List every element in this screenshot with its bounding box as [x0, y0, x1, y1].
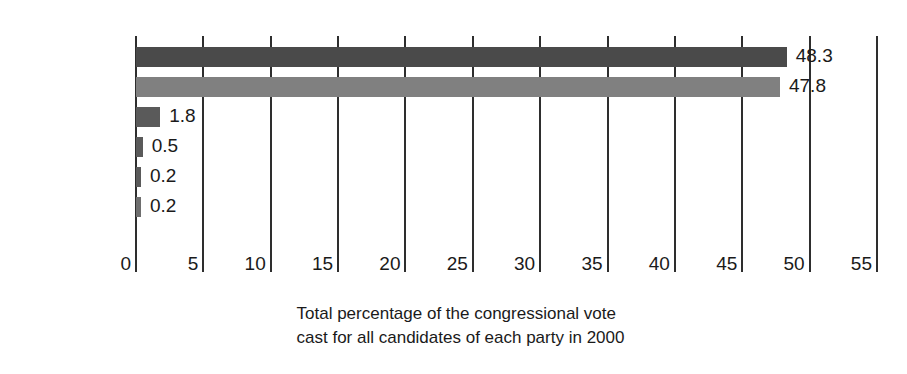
bar-category-label: Libertarians: [0, 105, 135, 127]
bar-category-label-text: Green: [0, 195, 135, 217]
x-tick-label-50: 50: [783, 252, 809, 276]
bar-category-label-text: Reform: [0, 165, 135, 187]
bar-value-label: 0.5: [152, 135, 178, 157]
bar-category-label-text: Libertarians: [0, 105, 135, 127]
caption-line-2: cast for all candidates of each party in…: [297, 326, 625, 350]
bar: [136, 137, 143, 157]
bar-category-label: Natural Law: [0, 135, 135, 157]
x-tick-label-40: 40: [649, 252, 675, 276]
bar-value-label: 0.2: [150, 165, 176, 187]
bar-value-label: 0.2: [150, 195, 176, 217]
x-tick-label-55: 55: [851, 252, 877, 276]
bar-row: Green0.2: [0, 197, 907, 217]
bar-chart: Republicans48.3Democrats47.8Libertarians…: [0, 0, 907, 374]
bar-category-label: Republicans: [0, 45, 135, 67]
bar-category-label: Reform: [0, 165, 135, 187]
bar-row: Natural Law0.5: [0, 137, 907, 157]
x-tick-label-20: 20: [379, 252, 405, 276]
x-tick-label-15: 15: [312, 252, 338, 276]
x-tick-label-45: 45: [716, 252, 742, 276]
bar-category-label-text: Democrats: [0, 75, 135, 97]
bar: [136, 167, 141, 187]
plot-area: Republicans48.3Democrats47.8Libertarians…: [0, 36, 907, 276]
caption-line-1: Total percentage of the congressional vo…: [297, 302, 625, 326]
bar: [136, 77, 780, 97]
bar-value-label: 47.8: [789, 75, 826, 97]
bar-value-label: 1.8: [169, 105, 195, 127]
bar-category-label: Democrats: [0, 75, 135, 97]
bar-row: Republicans48.3: [0, 47, 907, 67]
bar: [136, 47, 787, 67]
bar: [136, 197, 141, 217]
x-tick-label-35: 35: [581, 252, 607, 276]
x-axis-tick-labels: 0510152025303540455055: [0, 252, 907, 278]
bar: [136, 107, 160, 127]
bar-category-label: Green: [0, 195, 135, 217]
x-tick-label-10: 10: [245, 252, 271, 276]
chart-caption: Total percentage of the congressional vo…: [0, 302, 907, 350]
bar-row: Reform0.2: [0, 167, 907, 187]
x-tick-label-30: 30: [514, 252, 540, 276]
x-tick-label-0: 0: [120, 252, 136, 276]
bar-value-label: 48.3: [796, 45, 833, 67]
x-tick-label-25: 25: [447, 252, 473, 276]
bar-category-label-text: Natural Law: [0, 135, 135, 157]
bar-row: Democrats47.8: [0, 77, 907, 97]
bar-category-label-text: Republicans: [0, 45, 135, 67]
bar-row: Libertarians1.8: [0, 107, 907, 127]
x-tick-label-5: 5: [188, 252, 204, 276]
